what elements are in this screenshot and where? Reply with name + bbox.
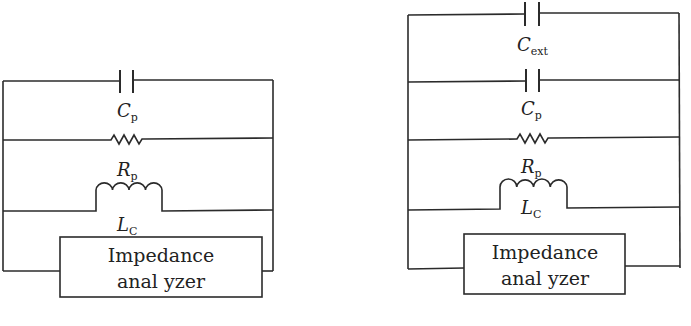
right-circuit: Cext Cp Rp LC Impedance anal yzer xyxy=(408,2,680,294)
resistor-rp: Rp xyxy=(408,134,679,180)
resistor-rp: Rp xyxy=(3,135,273,183)
circuit-diagrams: Cp Rp LC Impedance anal yzer xyxy=(0,0,691,326)
analyzer-label-line1: Impedance xyxy=(492,241,599,263)
label-lc: LC xyxy=(520,197,541,221)
impedance-analyzer-box: Impedance anal yzer xyxy=(60,237,262,297)
capacitor-cp: Cp xyxy=(3,70,273,124)
label-cp: Cp xyxy=(521,98,542,122)
left-circuit: Cp Rp LC Impedance anal yzer xyxy=(3,70,273,297)
capacitor-cext: Cext xyxy=(408,2,679,58)
label-cext: Cext xyxy=(517,34,548,58)
label-rp: Rp xyxy=(116,159,138,183)
right-rail xyxy=(679,13,680,268)
analyzer-label-line2: anal yzer xyxy=(501,267,590,289)
impedance-analyzer-box: Impedance anal yzer xyxy=(464,234,625,294)
label-rp: Rp xyxy=(520,156,542,180)
analyzer-label-line1: Impedance xyxy=(108,244,215,266)
label-lc: LC xyxy=(116,214,137,238)
inductor-lc: LC xyxy=(3,183,273,238)
inductor-lc: LC xyxy=(408,179,679,221)
label-cp: Cp xyxy=(117,100,138,124)
analyzer-label-line2: anal yzer xyxy=(117,270,206,292)
capacitor-cp: Cp xyxy=(408,69,679,122)
